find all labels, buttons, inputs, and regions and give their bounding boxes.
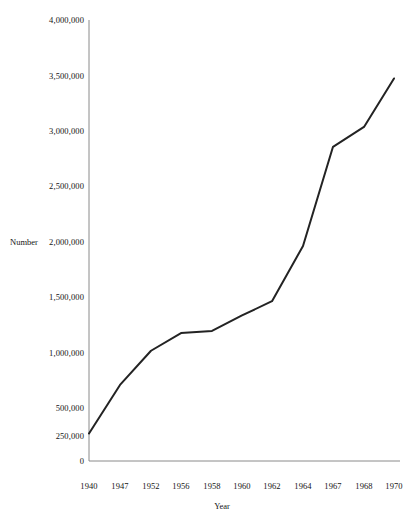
- line-chart: 4,000,000 3,500,000 3,000,000 2,500,000 …: [0, 0, 405, 521]
- plot-area: [0, 0, 405, 521]
- x-tick-label: 1964: [294, 481, 311, 491]
- x-tick-label: 1947: [111, 481, 128, 491]
- x-tick-label: 1962: [263, 481, 280, 491]
- x-tick-label: 1967: [324, 481, 341, 491]
- x-tick-label: 1940: [80, 481, 97, 491]
- x-tick-label: 1956: [172, 481, 189, 491]
- x-axis-title: Year: [214, 501, 230, 511]
- x-tick-label: 1952: [142, 481, 159, 491]
- x-tick-label: 1968: [355, 481, 372, 491]
- x-tick-label: 1960: [233, 481, 250, 491]
- x-tick-label: 1958: [203, 481, 220, 491]
- x-tick-label: 1970: [385, 481, 402, 491]
- data-series-line: [89, 78, 394, 433]
